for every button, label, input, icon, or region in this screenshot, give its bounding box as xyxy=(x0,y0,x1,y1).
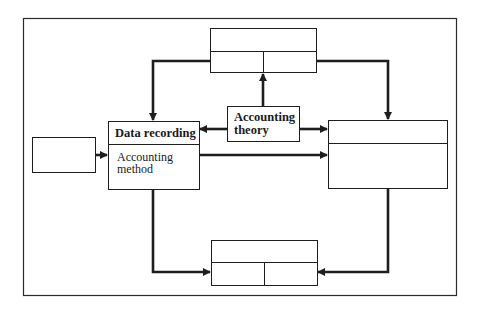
top-box-cell-right xyxy=(264,52,316,72)
arrow-data-recording-to-bottom xyxy=(153,190,210,272)
accounting-method-line2: method xyxy=(117,163,153,176)
arrow-right-box-to-bottom xyxy=(318,189,388,272)
arrow-top-to-data-recording xyxy=(153,61,210,120)
top-box-header xyxy=(211,29,316,52)
bottom-box-header xyxy=(212,241,317,263)
right-box xyxy=(328,120,448,189)
data-recording-box: Data recording Accounting method xyxy=(108,121,200,190)
right-box-body xyxy=(329,144,447,188)
arrow-top-to-right-box xyxy=(317,61,388,119)
bottom-box-cell-left xyxy=(212,263,265,285)
top-box xyxy=(210,28,317,73)
bottom-box-cell-right xyxy=(265,263,317,285)
bottom-box xyxy=(211,240,318,286)
data-recording-title: Data recording xyxy=(115,127,196,140)
top-box-cell-left xyxy=(211,52,264,72)
accounting-theory-line2: theory xyxy=(234,124,269,137)
input-box xyxy=(32,137,96,173)
diagram-canvas: Data recording Accounting method Account… xyxy=(0,0,479,311)
right-box-header xyxy=(329,121,447,144)
accounting-theory-box: Accounting theory xyxy=(227,106,300,142)
